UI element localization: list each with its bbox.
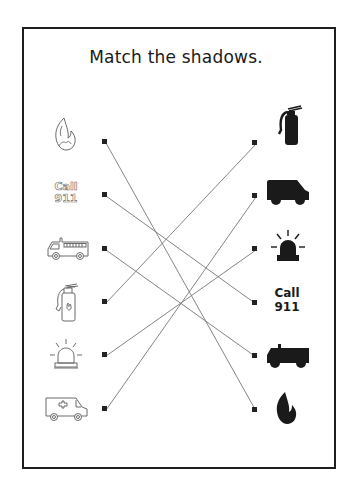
- right-dot-fire[interactable]: [252, 407, 257, 412]
- right-item-extinguisher-shadow: [276, 103, 304, 147]
- left-dot-fire[interactable]: [102, 139, 107, 144]
- left-item-call-911: Call 911: [46, 177, 86, 209]
- ambulance-outline-icon: [43, 392, 91, 424]
- right-dot-siren[interactable]: [252, 246, 257, 251]
- right-item-ambulance-shadow: [264, 176, 312, 208]
- left-item-extinguisher: [52, 280, 82, 324]
- fire-outline-icon: [52, 116, 78, 152]
- right-item-fire-truck-shadow: [264, 339, 312, 371]
- left-item-fire: [50, 114, 80, 154]
- worksheet-title: Match the shadows.: [0, 47, 352, 67]
- left-item-ambulance: [42, 390, 92, 426]
- left-dot-siren[interactable]: [102, 352, 107, 357]
- right-dot-call-911[interactable]: [252, 300, 257, 305]
- right-dot-fire-truck[interactable]: [252, 353, 257, 358]
- call-911-solid-line1: Call: [274, 286, 299, 300]
- siren-shadow-icon: [269, 229, 307, 263]
- right-item-fire-shadow: [272, 388, 300, 428]
- right-item-siren-shadow: [268, 228, 308, 264]
- right-item-call-911-shadow: Call 911: [268, 284, 306, 316]
- ambulance-shadow-icon: [265, 178, 311, 206]
- extinguisher-outline-icon: [53, 281, 81, 323]
- right-dot-ambulance[interactable]: [252, 193, 257, 198]
- fire-truck-outline-icon: [45, 234, 91, 262]
- right-dot-extinguisher[interactable]: [252, 140, 257, 145]
- left-item-fire-truck: [44, 232, 92, 264]
- left-dot-fire-truck[interactable]: [102, 246, 107, 251]
- left-dot-ambulance[interactable]: [102, 406, 107, 411]
- left-dot-extinguisher[interactable]: [102, 299, 107, 304]
- fire-shadow-icon: [274, 390, 298, 426]
- call-911-outline-line2: 911: [55, 193, 78, 205]
- call-911-solid-line2: 911: [274, 300, 299, 314]
- fire-truck-shadow-icon: [265, 341, 311, 369]
- left-item-siren: [46, 336, 86, 372]
- left-dot-call-911[interactable]: [102, 192, 107, 197]
- extinguisher-shadow-icon: [277, 104, 303, 146]
- siren-outline-icon: [47, 337, 85, 371]
